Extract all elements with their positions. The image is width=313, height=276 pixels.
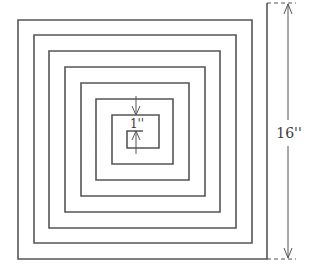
- spiral-line: [18, 3, 267, 259]
- inner-spacing-dimension: 1'': [130, 96, 144, 154]
- inner-spacing-label: 1'': [130, 117, 144, 131]
- square-spiral-diagram: 16'' 1'': [0, 0, 313, 276]
- overall-height-label: 16'': [276, 125, 302, 141]
- overall-height-dimension: 16'': [267, 3, 302, 259]
